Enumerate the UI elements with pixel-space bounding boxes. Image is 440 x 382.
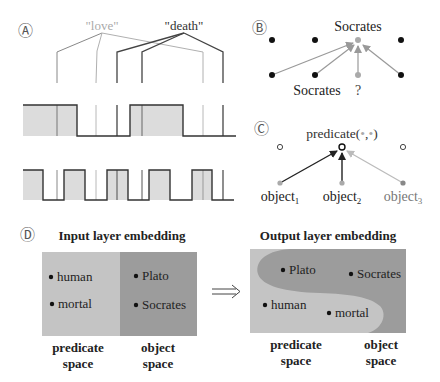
panel-c-label: Ⓒ	[254, 121, 269, 137]
output-plato: Plato	[289, 262, 316, 277]
panel-b-nodes	[269, 37, 404, 78]
input-plato: Plato	[142, 268, 169, 283]
top-socrates-label: Socrates	[334, 19, 381, 34]
panel-c: Ⓒ predicate(•,•) object1 object2 object3	[254, 121, 423, 206]
output-embedding-box: Plato Socrates human mortal	[250, 249, 406, 333]
transform-arrow-icon	[212, 285, 240, 298]
waveform-2	[23, 170, 234, 200]
input-object-space-label-1: object	[141, 340, 176, 355]
output-embedding-title: Output layer embedding	[260, 228, 397, 243]
output-socrates: Socrates	[357, 266, 401, 281]
panel-d-label: Ⓓ	[20, 227, 35, 243]
panel-c-arrows	[280, 151, 403, 183]
output-human: human	[271, 297, 307, 312]
predicate-label: predicate(•,•)	[306, 126, 377, 141]
panel-a: Ⓐ "love" "death"	[18, 18, 236, 200]
output-object-space-label-1: object	[364, 337, 399, 352]
panel-d: Ⓓ Input layer embedding Output layer emb…	[20, 227, 406, 371]
panel-b: Ⓑ Socrates	[252, 19, 404, 98]
object-2-label: object2	[323, 189, 362, 206]
panel-b-label: Ⓑ	[252, 20, 267, 36]
word-death: "death"	[165, 18, 204, 33]
waveform-1	[23, 105, 236, 136]
input-predicate-space-label-2: space	[63, 356, 94, 371]
output-predicate-space-label-2: space	[281, 353, 312, 368]
object-1-label: object1	[261, 189, 300, 206]
figure-canvas: Ⓐ "love" "death"	[0, 0, 440, 382]
output-predicate-space-label-1: predicate	[270, 337, 322, 352]
output-object-space-label-2: space	[366, 353, 397, 368]
input-human: human	[57, 269, 93, 284]
object-3-label: object3	[384, 189, 423, 206]
word-love: "love"	[86, 18, 119, 33]
input-embedding-box: human mortal Plato Socrates	[42, 252, 197, 336]
unknown-label: ?	[355, 83, 361, 98]
input-embedding-title: Input layer embedding	[59, 228, 186, 243]
input-object-space-label-2: space	[143, 356, 174, 371]
bottom-socrates-label: Socrates	[293, 83, 340, 98]
input-mortal: mortal	[58, 296, 92, 311]
death-connectors	[117, 33, 223, 83]
input-socrates: Socrates	[142, 297, 186, 312]
panel-a-label: Ⓐ	[18, 23, 33, 39]
panel-b-arrows	[272, 43, 401, 75]
love-connectors	[57, 33, 203, 83]
input-predicate-space-label-1: predicate	[52, 340, 104, 355]
output-mortal: mortal	[335, 305, 369, 320]
